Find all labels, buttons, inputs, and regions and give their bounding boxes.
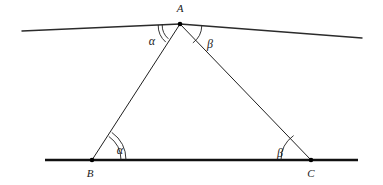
angle-arc-alpha-at-A-inner bbox=[162, 25, 168, 39]
angle-arc-beta-at-A bbox=[193, 26, 202, 43]
geometry-diagram-svg: A B C α β α β bbox=[0, 0, 383, 185]
upper-line-left-segment bbox=[22, 24, 180, 31]
vertex-label-A: A bbox=[176, 2, 184, 14]
upper-line-right-segment bbox=[180, 24, 362, 38]
angle-label-beta-at-A: β bbox=[206, 37, 213, 51]
vertex-dot-B bbox=[90, 158, 95, 163]
side-ab bbox=[92, 24, 180, 160]
geometry-diagram-canvas: A B C α β α β bbox=[0, 0, 383, 185]
side-ac bbox=[180, 24, 311, 160]
vertex-dot-A bbox=[178, 22, 183, 27]
vertex-label-B: B bbox=[87, 167, 94, 179]
angle-label-beta-at-C: β bbox=[276, 146, 283, 160]
angle-label-alpha-at-A: α bbox=[149, 34, 156, 48]
angle-label-alpha-at-B: α bbox=[117, 143, 124, 157]
vertex-label-C: C bbox=[307, 167, 315, 179]
vertex-dot-C bbox=[309, 158, 314, 163]
